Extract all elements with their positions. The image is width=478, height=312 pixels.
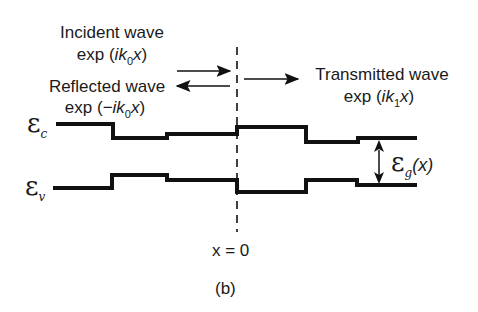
figure-caption: (b) — [215, 279, 236, 299]
valence-band-edge — [53, 175, 417, 192]
reflected-wave-expression: exp (−ik0x) — [48, 98, 162, 119]
valence-band-label: εv — [25, 173, 45, 204]
reflected-wave-title: Reflected wave — [49, 77, 165, 96]
incident-wave-expression: exp (ik0x) — [52, 45, 172, 66]
position-label: x = 0 — [212, 241, 249, 261]
transmitted-wave-expression: exp (ik1x) — [322, 87, 436, 108]
incident-wave-title: Incident wave — [60, 23, 164, 42]
conduction-band-label: εc — [27, 110, 47, 141]
incident-wave-label: Incident wave — [52, 23, 172, 43]
reflected-wave-label: Reflected wave — [40, 77, 174, 97]
band-gap-label: εg(x) — [391, 149, 433, 180]
transmitted-wave-label: Transmitted wave — [302, 65, 462, 85]
transmitted-wave-title: Transmitted wave — [315, 65, 449, 84]
